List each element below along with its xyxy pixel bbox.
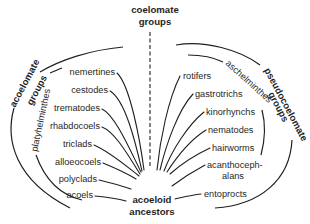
taxon-hairworms: hairworms — [212, 143, 255, 153]
taxon-rhabdocoels: rhabdocoels — [50, 121, 100, 131]
taxon-rotifers: rotifers — [183, 71, 211, 81]
taxon-triclads: triclads — [63, 139, 93, 149]
taxon-acanthocephalans: acanthoceph- — [207, 160, 263, 170]
branch-kinorhynchs — [164, 112, 204, 171]
taxon-nemertines: nemertines — [70, 67, 116, 77]
taxon-entoprocts: entoprocts — [204, 189, 247, 199]
branch-alloeocoels — [103, 163, 136, 179]
taxon-cestodes: cestodes — [71, 85, 108, 95]
branch-rotifers — [157, 76, 180, 170]
coelomate-groups-label-line2: groups — [139, 16, 172, 27]
platyhelminthes-arc-top — [50, 68, 62, 73]
aschelminthes-arc-top — [188, 55, 223, 62]
taxon-alloeocoels: alloeocoels — [55, 157, 101, 167]
taxon-acanthocephalans-line2: alans — [222, 171, 244, 181]
taxon-trematodes: trematodes — [54, 103, 100, 113]
acoeloid-ancestors-label: acoeloid — [133, 194, 172, 205]
phylogeny-diagram: coelomate groups acoelomate groups platy… — [0, 0, 310, 224]
coelomate-groups-label: coelomate — [131, 4, 178, 15]
taxon-polyclads: polyclads — [59, 174, 98, 184]
pseudocoelomate-outer-arc — [176, 44, 260, 65]
pseudocoelomate-label: pseudocoelomate — [262, 66, 310, 143]
branch-rhabdocoels — [102, 127, 140, 174]
taxon-kinorhynchs: kinorhynchs — [206, 107, 255, 117]
branch-polyclads — [99, 180, 131, 189]
branch-nemertines — [117, 73, 144, 170]
acoeloid-ancestors-label-line2: ancestors — [129, 206, 174, 217]
taxon-gastrotrichs: gastrotrichs — [195, 89, 243, 99]
taxon-acoels: acoels — [66, 190, 93, 200]
branch-hairworms — [170, 148, 210, 174]
branch-entoprocts — [175, 194, 201, 199]
taxon-nematodes: nematodes — [208, 125, 254, 135]
aschelminthes-arc-bottom — [261, 110, 265, 155]
branch-acoels — [95, 196, 126, 201]
